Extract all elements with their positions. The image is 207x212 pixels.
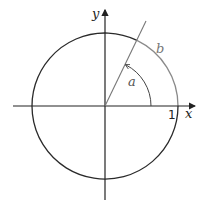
unit-circle-diagram: y x a b 1 <box>0 0 207 212</box>
angle-label-a: a <box>128 74 136 89</box>
arc-label-b: b <box>156 41 164 56</box>
unit-tick-label: 1 <box>168 108 176 122</box>
y-axis-label: y <box>91 6 100 21</box>
diagram-canvas: y x a b 1 <box>0 0 207 212</box>
x-axis-label: x <box>185 106 193 121</box>
